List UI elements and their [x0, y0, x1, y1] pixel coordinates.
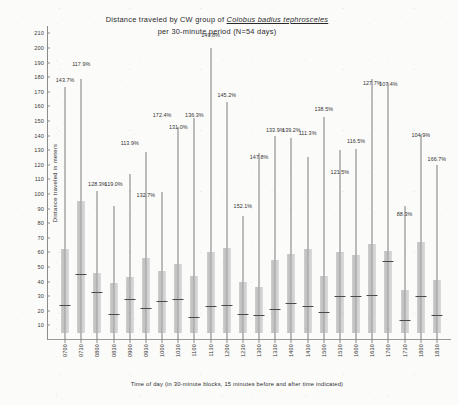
x-axis-tick-label: 1630: [369, 344, 375, 357]
chart-column[interactable]: 136.3%1100: [186, 26, 202, 340]
x-axis-title: Time of day (in 30-minute blocks, 15 min…: [52, 381, 422, 387]
y-axis-tick-label: 90: [38, 206, 44, 212]
x-axis-tick-mark: [388, 340, 389, 343]
chart-title-line-1: Distance traveled by CW group of Colobus…: [52, 14, 382, 26]
box-bar: [417, 242, 424, 333]
x-axis-tick-mark: [339, 340, 340, 343]
y-axis-tick-label: 80: [38, 220, 44, 226]
y-axis-tick-mark: [47, 310, 50, 311]
x-axis-tick-label: 1400: [288, 344, 294, 357]
cv-percent-label: 117.9%: [72, 61, 90, 67]
x-axis-tick-label: 1600: [353, 344, 359, 357]
y-axis-tick-label: 110: [35, 176, 44, 182]
cv-percent-label: 136.3%: [185, 112, 204, 118]
median-line: [270, 309, 281, 310]
chart-page: Distance traveled by CW group of Colobus…: [0, 0, 458, 405]
chart-column[interactable]: 138.5%1500: [316, 26, 332, 340]
chart-column[interactable]: 145.2%1200: [219, 26, 235, 340]
y-axis-tick-label: 70: [38, 235, 44, 241]
x-axis-tick-label: 1830: [434, 344, 440, 357]
y-axis-tick-label: 200: [34, 45, 44, 51]
x-axis-tick-mark: [372, 340, 373, 343]
cv-percent-label: 116.5%: [347, 138, 365, 144]
median-line: [254, 315, 265, 316]
box-bar: [159, 271, 166, 332]
chart-column[interactable]: 139.2%1400: [283, 26, 299, 340]
y-axis-tick-label: 30: [38, 293, 44, 299]
chart-column[interactable]: 104.9%1800: [413, 26, 429, 340]
chart-column[interactable]: 172.4%1000: [154, 26, 170, 340]
y-axis-tick-mark: [47, 237, 50, 238]
cv-percent-label: 132.7%: [137, 192, 156, 198]
cv-percent-label: 111.3%: [299, 130, 317, 136]
median-line: [383, 261, 394, 262]
cv-percent-label: 149.8%: [201, 32, 220, 38]
y-axis-tick-label: 130: [34, 147, 44, 153]
y-axis-tick-label: 160: [34, 103, 44, 109]
chart-column[interactable]: 132.7%0930: [138, 26, 154, 340]
median-line: [60, 305, 71, 306]
chart-column[interactable]: 166.7%1830: [429, 26, 445, 340]
chart-column[interactable]: 131.0%1030: [170, 26, 186, 340]
x-axis-tick-label: 0800: [94, 344, 100, 357]
chart-column[interactable]: 121.5%1530: [332, 26, 348, 340]
y-axis-tick-label: 180: [34, 74, 44, 80]
chart-column[interactable]: 152.1%1230: [235, 26, 251, 340]
chart-column[interactable]: 128.3%0800: [89, 26, 105, 340]
y-axis-line: [47, 26, 48, 340]
median-line: [415, 296, 426, 297]
box-bar: [272, 260, 279, 333]
median-line: [302, 306, 313, 307]
x-axis-tick-mark: [178, 340, 179, 343]
y-axis-tick-mark: [47, 91, 50, 92]
y-axis-tick-mark: [47, 120, 50, 121]
chart-column[interactable]: 113.9%0900: [122, 26, 138, 340]
y-axis-tick-label: 20: [38, 308, 44, 314]
box-bar: [62, 249, 69, 332]
chart-column[interactable]: 149.8%1130: [203, 26, 219, 340]
median-line: [334, 296, 345, 297]
y-axis-tick-mark: [47, 77, 50, 78]
cv-percent-label: 143.7%: [56, 77, 75, 83]
x-axis-tick-label: 1430: [305, 344, 311, 357]
median-line: [237, 314, 248, 315]
y-axis-tick-label: 150: [34, 118, 44, 124]
box-bar: [239, 282, 246, 333]
box-bar: [288, 254, 295, 333]
x-axis-tick-mark: [356, 340, 357, 343]
x-axis-tick-mark: [420, 340, 421, 343]
box-bar: [385, 251, 392, 333]
chart-column[interactable]: 116.5%1600: [348, 26, 364, 340]
x-axis-tick-mark: [65, 340, 66, 343]
y-axis-tick-mark: [47, 62, 50, 63]
x-axis-tick-label: 1700: [385, 344, 391, 357]
chart-column[interactable]: 147.8%1300: [251, 26, 267, 340]
x-axis-tick-mark: [162, 340, 163, 343]
x-axis-tick-label: 1330: [272, 344, 278, 357]
cv-percent-label: 104.9%: [411, 132, 430, 138]
chart-column[interactable]: 107.4%1700: [380, 26, 396, 340]
x-axis-tick-label: 1730: [402, 344, 408, 357]
species-name: Colobus badius tephrosceles: [227, 15, 329, 24]
box-bar: [353, 255, 360, 332]
cv-percent-label: 113.9%: [121, 140, 139, 146]
chart-column[interactable]: 133.9%1330: [267, 26, 283, 340]
y-axis-tick-mark: [47, 252, 50, 253]
median-line: [221, 305, 232, 306]
y-axis-tick-mark: [47, 296, 50, 297]
chart-column[interactable]: 119.0%0830: [106, 26, 122, 340]
median-line: [399, 320, 410, 321]
y-axis-tick-mark: [47, 208, 50, 209]
chart-column[interactable]: 117.9%0730: [73, 26, 89, 340]
cv-percent-label: 166.7%: [428, 156, 447, 162]
chart-column[interactable]: 127.7%1630: [364, 26, 380, 340]
chart-column[interactable]: 111.3%1430: [300, 26, 316, 340]
x-axis-tick-mark: [307, 340, 308, 343]
x-axis-tick-mark: [81, 340, 82, 343]
x-axis-tick-label: 1200: [224, 344, 230, 357]
chart-column[interactable]: 88.3%1730: [397, 26, 413, 340]
median-line: [108, 314, 119, 315]
x-axis-tick-mark: [113, 340, 114, 343]
cv-percent-label: 152.1%: [234, 203, 253, 209]
chart-column[interactable]: 143.7%0700: [57, 26, 73, 340]
